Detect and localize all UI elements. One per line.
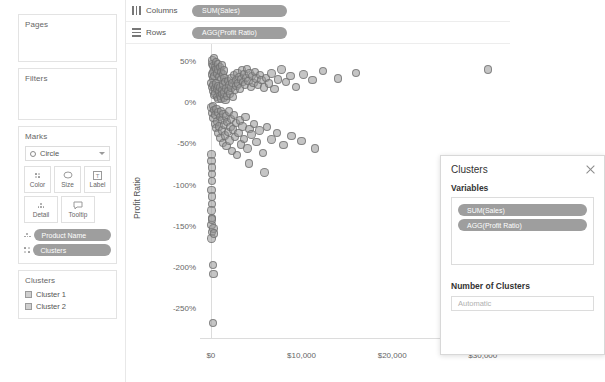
tooltip-icon xyxy=(73,200,83,210)
scatter-point[interactable] xyxy=(209,270,217,278)
scatter-point[interactable] xyxy=(252,138,260,146)
size-button[interactable]: Size xyxy=(54,166,81,193)
scatter-point[interactable] xyxy=(263,123,271,131)
scatter-point[interactable] xyxy=(259,149,267,157)
x-tick-label: $10,000 xyxy=(287,351,316,360)
y-tick-label: -150% xyxy=(173,222,196,231)
clusters-legend-card[interactable]: Clusters Cluster 1 Cluster 2 xyxy=(18,270,117,319)
color-squares-icon xyxy=(35,170,41,180)
variable-pill-profit-ratio[interactable]: AGG(Profit Ratio) xyxy=(458,219,587,231)
scatter-point[interactable] xyxy=(273,129,281,137)
scatter-point[interactable] xyxy=(274,75,282,83)
rows-shelf[interactable]: Rows AGG(Profit Ratio) xyxy=(126,22,510,44)
color-button-label: Color xyxy=(30,182,46,189)
variables-label: Variables xyxy=(441,177,604,197)
scatter-point[interactable] xyxy=(297,137,305,145)
left-panel: Pages Filters Marks Circle Color xyxy=(0,0,125,382)
clusters-legend-title: Clusters xyxy=(19,271,116,288)
legend-swatch-icon xyxy=(25,291,32,298)
pages-card-title: Pages xyxy=(19,15,116,32)
rows-shelf-pill[interactable]: AGG(Profit Ratio) xyxy=(192,27,287,39)
tooltip-button[interactable]: Tooltip xyxy=(61,196,95,223)
y-tick-label: -50% xyxy=(177,139,196,148)
mark-type-dropdown[interactable]: Circle xyxy=(25,146,110,161)
variables-box[interactable]: SUM(Sales) AGG(Profit Ratio) xyxy=(451,197,594,265)
marks-pill-product-name[interactable]: Product Name xyxy=(34,229,112,241)
legend-item-cluster-2[interactable]: Cluster 2 xyxy=(19,300,116,312)
marks-pill-list: Product Name Clusters xyxy=(19,223,116,256)
scatter-point[interactable] xyxy=(279,141,287,149)
size-button-label: Size xyxy=(61,182,74,189)
scatter-point[interactable] xyxy=(299,70,307,78)
scatter-point[interactable] xyxy=(260,168,268,176)
close-icon[interactable] xyxy=(585,164,596,175)
scatter-point[interactable] xyxy=(241,113,249,121)
tooltip-button-label: Tooltip xyxy=(69,212,88,219)
scatter-point[interactable] xyxy=(287,132,295,140)
scatter-point[interactable] xyxy=(292,83,300,91)
scatter-point[interactable] xyxy=(319,67,327,75)
marks-button-row-1: Color Size T Label xyxy=(19,166,116,193)
scatter-point[interactable] xyxy=(277,65,285,73)
columns-icon xyxy=(132,6,141,15)
pages-card[interactable]: Pages xyxy=(18,14,117,62)
label-icon: T xyxy=(93,170,102,180)
label-button[interactable]: T Label xyxy=(84,166,111,193)
detail-icon xyxy=(38,200,45,210)
mark-type-value: Circle xyxy=(40,149,99,158)
legend-item-cluster-1[interactable]: Cluster 1 xyxy=(19,288,116,300)
marks-button-row-2: Detail Tooltip xyxy=(19,196,116,223)
filters-card-title: Filters xyxy=(19,69,116,86)
x-tick-label: $20,000 xyxy=(378,351,407,360)
marks-pill-clusters-row: Clusters xyxy=(24,244,111,256)
marks-pill-clusters[interactable]: Clusters xyxy=(33,244,112,256)
x-tick-label: $0 xyxy=(206,351,215,360)
legend-item-cluster-2-label: Cluster 2 xyxy=(36,302,66,311)
color-button[interactable]: Color xyxy=(24,166,51,193)
scatter-point[interactable] xyxy=(334,74,342,82)
y-tick-label: 50% xyxy=(180,57,196,66)
size-icon xyxy=(63,170,73,180)
scatter-point[interactable] xyxy=(484,65,492,73)
variable-pill-sales[interactable]: SUM(Sales) xyxy=(458,204,587,216)
columns-shelf-pill[interactable]: SUM(Sales) xyxy=(192,5,287,17)
clusters-dialog-header: Clusters xyxy=(441,156,604,177)
number-of-clusters-input[interactable]: Automatic xyxy=(451,296,594,311)
scatter-point[interactable] xyxy=(270,85,278,93)
scatter-point[interactable] xyxy=(208,177,216,185)
scatter-point[interactable] xyxy=(352,69,360,77)
scatter-point[interactable] xyxy=(286,72,294,80)
svg-text:T: T xyxy=(96,173,100,179)
marks-pill-product-name-row: Product Name xyxy=(24,229,111,241)
scatter-point[interactable] xyxy=(308,76,316,84)
legend-item-cluster-1-label: Cluster 1 xyxy=(36,290,66,299)
scatter-point[interactable] xyxy=(209,261,217,269)
number-of-clusters-label: Number of Clusters xyxy=(441,265,604,296)
y-axis-ticks: 50%0%-50%-100%-150%-200%-250% xyxy=(144,44,196,382)
viz-area: Columns SUM(Sales) Rows AGG(Profit Ratio… xyxy=(125,0,510,382)
scatter-point[interactable] xyxy=(245,159,253,167)
columns-shelf[interactable]: Columns SUM(Sales) xyxy=(126,0,510,22)
scatter-point[interactable] xyxy=(210,229,218,237)
y-axis-title: Profit Ratio xyxy=(132,177,142,219)
filters-card[interactable]: Filters xyxy=(18,68,117,120)
detail-icon xyxy=(24,233,31,238)
y-tick-label: -100% xyxy=(173,181,196,190)
scatter-point[interactable] xyxy=(208,215,216,223)
detail-button[interactable]: Detail xyxy=(24,196,58,223)
color-squares-icon xyxy=(24,247,30,253)
rows-shelf-label: Rows xyxy=(146,28,192,37)
y-tick-label: -250% xyxy=(173,304,196,313)
circle-icon xyxy=(30,151,36,157)
y-tick-label: -200% xyxy=(173,263,196,272)
scatter-point[interactable] xyxy=(209,319,217,327)
scatter-point[interactable] xyxy=(243,144,251,152)
scatter-point[interactable] xyxy=(233,151,241,159)
marks-card[interactable]: Marks Circle Color Size xyxy=(18,126,117,264)
legend-swatch-icon xyxy=(25,303,32,310)
detail-button-label: Detail xyxy=(33,212,50,219)
chevron-down-icon[interactable] xyxy=(99,152,105,155)
clusters-dialog[interactable]: Clusters Variables SUM(Sales) AGG(Profit… xyxy=(440,155,605,355)
scatter-point[interactable] xyxy=(311,144,319,152)
